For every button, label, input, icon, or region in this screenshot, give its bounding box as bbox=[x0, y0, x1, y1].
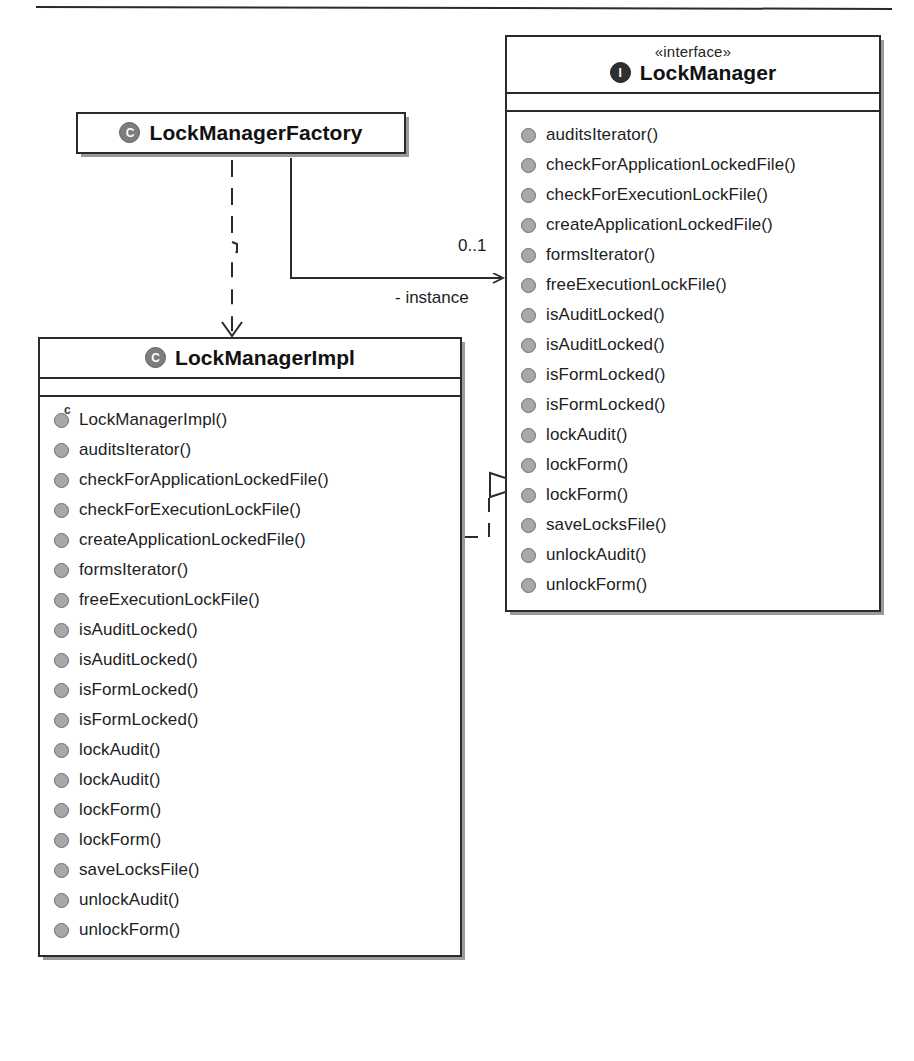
operation-row[interactable]: lockAudit() bbox=[40, 735, 460, 765]
operation-row[interactable]: isFormLocked() bbox=[40, 705, 460, 735]
public-method-marker-icon bbox=[521, 488, 536, 503]
operation-row[interactable]: checkForApplicationLockedFile() bbox=[40, 465, 460, 495]
operation-label: isFormLocked() bbox=[79, 710, 198, 730]
operation-row[interactable]: lockForm() bbox=[507, 480, 879, 510]
operation-label: createApplicationLockedFile() bbox=[546, 215, 773, 235]
operation-row[interactable]: lockAudit() bbox=[507, 420, 879, 450]
operation-label: isFormLocked() bbox=[546, 365, 665, 385]
association-factory-to-lockmanager bbox=[291, 158, 503, 278]
attributes-compartment bbox=[40, 379, 460, 395]
class-box-lockmanagerimpl[interactable]: C LockManagerImpl LockManagerImpl()audit… bbox=[38, 337, 462, 957]
operation-label: saveLocksFile() bbox=[79, 860, 200, 880]
operation-label: formsIterator() bbox=[79, 560, 188, 580]
public-method-marker-icon bbox=[54, 773, 69, 788]
interface-name-label: LockManager bbox=[640, 60, 776, 85]
operation-row[interactable]: auditsIterator() bbox=[507, 120, 879, 150]
operation-row[interactable]: formsIterator() bbox=[507, 240, 879, 270]
operation-label: lockAudit() bbox=[546, 425, 627, 445]
class-circle-icon: C bbox=[119, 122, 140, 143]
public-method-marker-icon bbox=[521, 548, 536, 563]
public-method-marker-icon bbox=[54, 623, 69, 638]
operation-label: lockForm() bbox=[546, 455, 628, 475]
public-method-marker-icon bbox=[521, 188, 536, 203]
public-method-marker-icon bbox=[521, 158, 536, 173]
operation-label: isFormLocked() bbox=[79, 680, 198, 700]
stereotype-label: «interface» bbox=[515, 43, 871, 60]
operation-row[interactable]: isAuditLocked() bbox=[507, 330, 879, 360]
operation-label: isAuditLocked() bbox=[79, 620, 198, 640]
public-method-marker-icon bbox=[54, 743, 69, 758]
operation-row[interactable]: createApplicationLockedFile() bbox=[40, 525, 460, 555]
class-name-label: LockManagerFactory bbox=[149, 120, 362, 145]
operation-row[interactable]: checkForApplicationLockedFile() bbox=[507, 150, 879, 180]
constructor-marker-icon bbox=[54, 413, 69, 428]
public-method-marker-icon bbox=[54, 563, 69, 578]
public-method-marker-icon bbox=[54, 713, 69, 728]
operation-label: freeExecutionLockFile() bbox=[546, 275, 727, 295]
operation-row[interactable]: unlockAudit() bbox=[507, 540, 879, 570]
interface-title-row: I LockManager bbox=[515, 60, 871, 85]
attributes-compartment bbox=[507, 94, 879, 110]
operation-label: unlockForm() bbox=[79, 920, 180, 940]
public-method-marker-icon bbox=[521, 428, 536, 443]
public-method-marker-icon bbox=[521, 338, 536, 353]
interface-circle-icon: I bbox=[610, 62, 631, 83]
public-method-marker-icon bbox=[54, 863, 69, 878]
class-header-lockmanagerfactory: C LockManagerFactory bbox=[78, 114, 404, 152]
operation-row[interactable]: checkForExecutionLockFile() bbox=[507, 180, 879, 210]
operation-row[interactable]: lockForm() bbox=[507, 450, 879, 480]
public-method-marker-icon bbox=[521, 308, 536, 323]
public-method-marker-icon bbox=[521, 578, 536, 593]
public-method-marker-icon bbox=[521, 458, 536, 473]
operation-row[interactable]: lockForm() bbox=[40, 795, 460, 825]
public-method-marker-icon bbox=[54, 683, 69, 698]
operation-row[interactable]: isFormLocked() bbox=[507, 360, 879, 390]
public-method-marker-icon bbox=[521, 398, 536, 413]
operation-label: isAuditLocked() bbox=[546, 305, 665, 325]
public-method-marker-icon bbox=[54, 833, 69, 848]
operation-label: checkForExecutionLockFile() bbox=[546, 185, 768, 205]
public-method-marker-icon bbox=[521, 248, 536, 263]
operation-row[interactable]: isFormLocked() bbox=[40, 675, 460, 705]
operation-row[interactable]: createApplicationLockedFile() bbox=[507, 210, 879, 240]
operation-row[interactable]: auditsIterator() bbox=[40, 435, 460, 465]
interface-box-lockmanager[interactable]: «interface» I LockManager auditsIterator… bbox=[505, 35, 881, 612]
public-method-marker-icon bbox=[54, 803, 69, 818]
operation-row[interactable]: saveLocksFile() bbox=[507, 510, 879, 540]
operation-row[interactable]: unlockForm() bbox=[507, 570, 879, 600]
public-method-marker-icon bbox=[521, 128, 536, 143]
operation-row[interactable]: isAuditLocked() bbox=[40, 615, 460, 645]
operation-row[interactable]: lockAudit() bbox=[40, 765, 460, 795]
operation-row[interactable]: saveLocksFile() bbox=[40, 855, 460, 885]
public-method-marker-icon bbox=[521, 518, 536, 533]
operation-label: saveLocksFile() bbox=[546, 515, 667, 535]
operation-row[interactable]: formsIterator() bbox=[40, 555, 460, 585]
operation-label: isAuditLocked() bbox=[546, 335, 665, 355]
operation-row[interactable]: freeExecutionLockFile() bbox=[507, 270, 879, 300]
operation-label: createApplicationLockedFile() bbox=[79, 530, 306, 550]
operation-row[interactable]: lockForm() bbox=[40, 825, 460, 855]
operation-label: lockForm() bbox=[79, 800, 161, 820]
public-method-marker-icon bbox=[54, 893, 69, 908]
public-method-marker-icon bbox=[54, 923, 69, 938]
operation-label: auditsIterator() bbox=[79, 440, 191, 460]
class-box-lockmanagerfactory[interactable]: C LockManagerFactory bbox=[76, 112, 406, 154]
operation-label: formsIterator() bbox=[546, 245, 655, 265]
association-multiplicity-label: 0..1 bbox=[458, 236, 486, 256]
operation-row[interactable]: checkForExecutionLockFile() bbox=[40, 495, 460, 525]
class-title-row: C LockManagerImpl bbox=[48, 345, 452, 370]
operation-row[interactable]: isFormLocked() bbox=[507, 390, 879, 420]
operation-row[interactable]: isAuditLocked() bbox=[507, 300, 879, 330]
operation-label: freeExecutionLockFile() bbox=[79, 590, 260, 610]
operations-compartment: auditsIterator()checkForApplicationLocke… bbox=[507, 112, 879, 610]
public-method-marker-icon bbox=[54, 653, 69, 668]
operation-row[interactable]: unlockAudit() bbox=[40, 885, 460, 915]
operation-row[interactable]: isAuditLocked() bbox=[40, 645, 460, 675]
public-method-marker-icon bbox=[521, 278, 536, 293]
operation-row[interactable]: LockManagerImpl() bbox=[40, 405, 460, 435]
operation-label: LockManagerImpl() bbox=[79, 410, 227, 430]
class-name-label: LockManagerImpl bbox=[175, 345, 355, 370]
operation-label: unlockAudit() bbox=[79, 890, 180, 910]
operation-row[interactable]: unlockForm() bbox=[40, 915, 460, 945]
operation-row[interactable]: freeExecutionLockFile() bbox=[40, 585, 460, 615]
